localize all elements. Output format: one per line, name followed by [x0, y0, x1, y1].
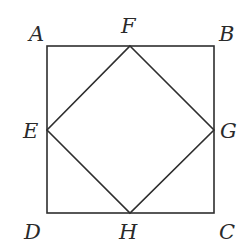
label-b: B	[218, 22, 234, 46]
label-h: H	[118, 220, 138, 244]
geometry-diagram: A F B E G D H C	[0, 0, 252, 249]
label-d: D	[23, 220, 41, 244]
label-e: E	[22, 119, 38, 143]
outer-square-abcd	[47, 46, 214, 213]
label-f: F	[120, 14, 137, 38]
inner-square-efgh	[47, 46, 214, 213]
label-c: C	[219, 220, 235, 244]
label-a: A	[27, 22, 44, 46]
label-g: G	[220, 119, 237, 143]
